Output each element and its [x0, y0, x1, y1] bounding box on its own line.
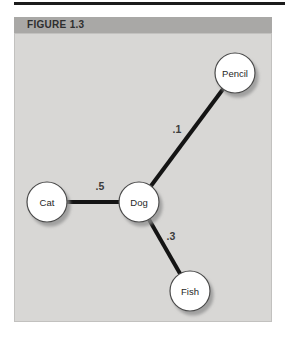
edge-dog-pencil — [139, 73, 235, 202]
top-rule-divider — [14, 2, 285, 5]
node-dog: Dog — [119, 182, 159, 222]
graph-diagram: .1 .5 .3 Pencil Cat Dog — [14, 33, 272, 322]
edge-weight-cat-dog: .5 — [96, 180, 105, 192]
node-cat-label: Cat — [40, 197, 55, 208]
node-cat: Cat — [27, 182, 67, 222]
node-fish-label: Fish — [181, 286, 199, 297]
node-dog-label: Dog — [130, 197, 147, 208]
textbook-figure-page: FIGURE 1.3 .1 .5 .3 — [0, 0, 285, 340]
node-pencil: Pencil — [215, 53, 255, 93]
edge-weight-dog-fish: .3 — [167, 230, 176, 242]
figure-header: FIGURE 1.3 — [14, 17, 272, 33]
node-fish: Fish — [170, 271, 210, 311]
node-pencil-label: Pencil — [222, 68, 248, 79]
figure-box: FIGURE 1.3 .1 .5 .3 — [14, 17, 272, 322]
edge-weight-dog-pencil: .1 — [173, 123, 182, 135]
figure-title: FIGURE 1.3 — [14, 17, 272, 33]
figure-panel: .1 .5 .3 Pencil Cat Dog — [14, 33, 272, 322]
